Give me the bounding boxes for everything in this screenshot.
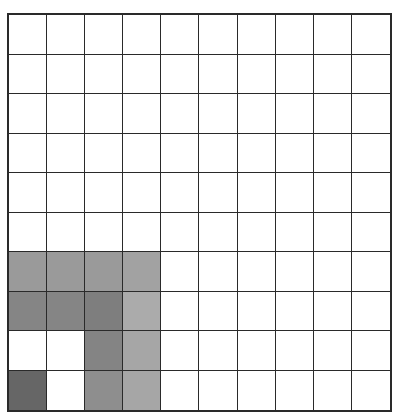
shaded-cell	[9, 371, 47, 411]
empty-cell	[123, 55, 161, 95]
empty-cell	[314, 292, 352, 332]
empty-cell	[314, 252, 352, 292]
empty-cell	[161, 371, 199, 411]
empty-cell	[276, 371, 314, 411]
empty-cell	[161, 173, 199, 213]
empty-cell	[238, 213, 276, 253]
empty-cell	[199, 331, 237, 371]
empty-cell	[199, 15, 237, 55]
empty-cell	[161, 55, 199, 95]
empty-cell	[47, 331, 85, 371]
empty-cell	[352, 15, 390, 55]
empty-cell	[85, 15, 123, 55]
empty-cell	[314, 94, 352, 134]
empty-cell	[352, 134, 390, 174]
empty-cell	[352, 173, 390, 213]
empty-cell	[161, 331, 199, 371]
empty-cell	[352, 252, 390, 292]
empty-cell	[199, 371, 237, 411]
empty-cell	[161, 94, 199, 134]
empty-cell	[276, 15, 314, 55]
empty-cell	[85, 55, 123, 95]
empty-cell	[352, 55, 390, 95]
empty-cell	[314, 371, 352, 411]
empty-cell	[199, 55, 237, 95]
empty-cell	[123, 173, 161, 213]
empty-cell	[276, 213, 314, 253]
empty-cell	[238, 371, 276, 411]
empty-cell	[161, 213, 199, 253]
shaded-cell	[9, 292, 47, 332]
empty-cell	[161, 252, 199, 292]
empty-cell	[314, 213, 352, 253]
shaded-cell	[47, 252, 85, 292]
empty-cell	[47, 213, 85, 253]
empty-cell	[352, 94, 390, 134]
empty-cell	[276, 292, 314, 332]
empty-cell	[276, 331, 314, 371]
empty-cell	[199, 173, 237, 213]
empty-cell	[47, 134, 85, 174]
hundred-grid	[7, 13, 392, 412]
empty-cell	[199, 252, 237, 292]
empty-cell	[276, 55, 314, 95]
empty-cell	[123, 134, 161, 174]
empty-cell	[9, 134, 47, 174]
shaded-cell	[123, 331, 161, 371]
shaded-cell	[123, 371, 161, 411]
empty-cell	[314, 331, 352, 371]
empty-cell	[47, 371, 85, 411]
empty-cell	[352, 292, 390, 332]
empty-cell	[123, 94, 161, 134]
empty-cell	[9, 213, 47, 253]
empty-cell	[276, 173, 314, 213]
empty-cell	[199, 134, 237, 174]
empty-cell	[314, 15, 352, 55]
empty-cell	[199, 292, 237, 332]
empty-cell	[314, 173, 352, 213]
shaded-cell	[9, 252, 47, 292]
empty-cell	[238, 331, 276, 371]
empty-cell	[47, 15, 85, 55]
empty-cell	[47, 94, 85, 134]
empty-cell	[85, 94, 123, 134]
empty-cell	[276, 94, 314, 134]
shaded-cell	[85, 371, 123, 411]
empty-cell	[238, 134, 276, 174]
empty-cell	[352, 371, 390, 411]
empty-cell	[352, 331, 390, 371]
empty-cell	[123, 213, 161, 253]
empty-cell	[123, 15, 161, 55]
empty-cell	[9, 55, 47, 95]
empty-cell	[199, 94, 237, 134]
shaded-cell	[85, 331, 123, 371]
empty-cell	[238, 292, 276, 332]
empty-cell	[47, 173, 85, 213]
empty-cell	[161, 134, 199, 174]
empty-cell	[314, 55, 352, 95]
empty-cell	[352, 213, 390, 253]
empty-cell	[238, 252, 276, 292]
empty-cell	[276, 134, 314, 174]
empty-cell	[85, 173, 123, 213]
empty-cell	[314, 134, 352, 174]
empty-cell	[161, 292, 199, 332]
empty-cell	[9, 331, 47, 371]
empty-cell	[161, 15, 199, 55]
empty-cell	[276, 252, 314, 292]
empty-cell	[85, 134, 123, 174]
shaded-cell	[85, 292, 123, 332]
empty-cell	[9, 15, 47, 55]
empty-cell	[238, 173, 276, 213]
shaded-cell	[85, 252, 123, 292]
shaded-cell	[123, 252, 161, 292]
empty-cell	[9, 173, 47, 213]
empty-cell	[85, 213, 123, 253]
empty-cell	[47, 55, 85, 95]
empty-cell	[238, 55, 276, 95]
empty-cell	[238, 94, 276, 134]
shaded-cell	[47, 292, 85, 332]
empty-cell	[238, 15, 276, 55]
empty-cell	[199, 213, 237, 253]
empty-cell	[9, 94, 47, 134]
